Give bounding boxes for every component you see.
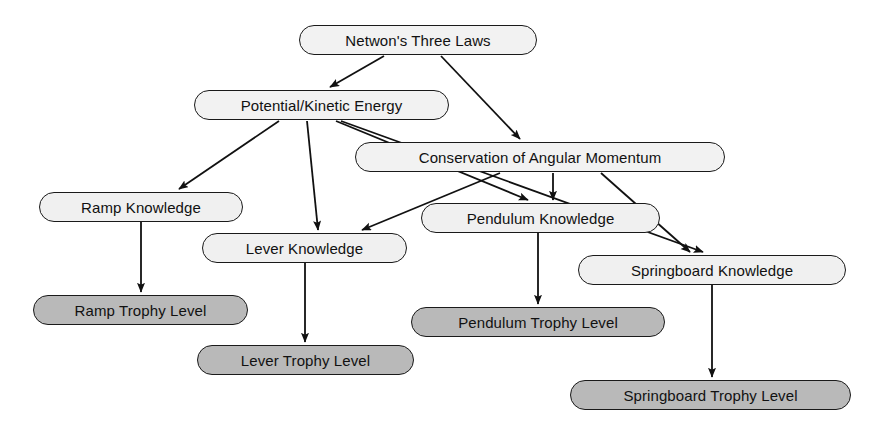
node-label-newtons_laws: Netwon's Three Laws [345, 32, 490, 49]
node-springboard_knowledge[interactable]: Springboard Knowledge [578, 255, 846, 285]
node-potential_kinetic[interactable]: Potential/Kinetic Energy [194, 90, 449, 120]
node-newtons_laws[interactable]: Netwon's Three Laws [299, 25, 537, 55]
node-label-potential_kinetic: Potential/Kinetic Energy [241, 97, 403, 114]
node-label-springboard_knowledge: Springboard Knowledge [631, 262, 793, 279]
node-label-conservation: Conservation of Angular Momentum [419, 149, 662, 166]
diagram-canvas: Netwon's Three LawsPotential/Kinetic Ene… [0, 0, 887, 423]
node-label-springboard_trophy: Springboard Trophy Level [623, 387, 797, 404]
node-pendulum_knowledge[interactable]: Pendulum Knowledge [421, 203, 660, 233]
node-pendulum_trophy[interactable]: Pendulum Trophy Level [411, 307, 665, 337]
edge-newtons_laws-to-conservation [441, 56, 520, 139]
node-ramp_knowledge[interactable]: Ramp Knowledge [39, 192, 243, 222]
node-ramp_trophy[interactable]: Ramp Trophy Level [33, 295, 248, 325]
node-label-ramp_trophy: Ramp Trophy Level [75, 302, 207, 319]
node-lever_trophy[interactable]: Lever Trophy Level [197, 345, 414, 375]
edge-newtons_laws-to-potential_kinetic [330, 56, 384, 87]
node-lever_knowledge[interactable]: Lever Knowledge [202, 233, 407, 263]
node-label-ramp_knowledge: Ramp Knowledge [81, 199, 201, 216]
node-springboard_trophy[interactable]: Springboard Trophy Level [570, 380, 851, 410]
node-conservation[interactable]: Conservation of Angular Momentum [355, 142, 725, 172]
edge-potential_kinetic-to-ramp_knowledge [179, 121, 279, 189]
node-label-pendulum_knowledge: Pendulum Knowledge [467, 210, 615, 227]
edge-potential_kinetic-to-lever_knowledge [307, 121, 318, 230]
node-label-pendulum_trophy: Pendulum Trophy Level [458, 314, 618, 331]
node-label-lever_knowledge: Lever Knowledge [246, 240, 363, 257]
node-label-lever_trophy: Lever Trophy Level [241, 352, 370, 369]
